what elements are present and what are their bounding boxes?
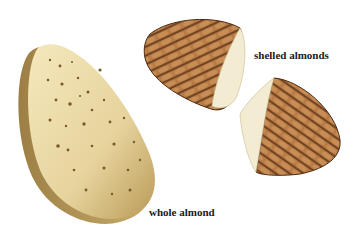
- shelled-almonds-label: shelled almonds: [254, 49, 329, 61]
- whole-almond: [18, 44, 155, 224]
- shelled-almond-half-1: [144, 19, 245, 109]
- almond-drawing: [0, 0, 362, 236]
- shelled-almond-half-2: [240, 78, 340, 175]
- almond-illustration: shelled almonds whole almond: [0, 0, 362, 236]
- whole-almond-label: whole almond: [149, 206, 215, 218]
